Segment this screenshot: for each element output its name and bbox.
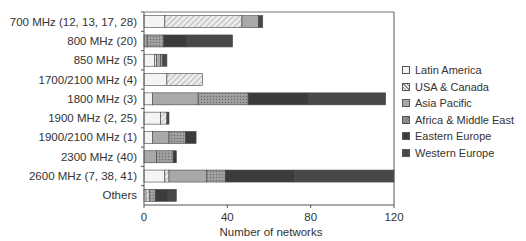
legend-item: Latin America — [402, 62, 514, 79]
category-label: Others — [102, 189, 137, 201]
legend-label: Africa & Middle East — [415, 114, 514, 126]
category-label: 2300 MHz (40) — [61, 151, 137, 163]
bar-segment — [207, 170, 226, 182]
bar-segment — [164, 35, 187, 47]
bar-segment — [144, 93, 152, 105]
bar-segment — [165, 170, 169, 182]
legend-label: Eastern Europe — [415, 130, 491, 142]
bar-segment — [144, 74, 167, 86]
bar-segment — [144, 54, 154, 66]
x-tick-label: 120 — [384, 211, 403, 223]
bar-segment — [167, 74, 202, 86]
legend-label: Western Europe — [415, 147, 494, 159]
bar-segment — [147, 35, 164, 47]
category-label: 850 MHz (5) — [74, 54, 137, 66]
bar-segment — [144, 131, 152, 143]
bar-segment — [144, 151, 157, 163]
legend-item: USA & Canada — [402, 79, 514, 96]
x-tick-label: 80 — [304, 211, 317, 223]
bar-segment — [225, 170, 294, 182]
bar-segment — [161, 112, 167, 124]
legend-swatch-icon — [402, 83, 410, 91]
category-label: 1800 MHz (3) — [67, 93, 137, 105]
bar-segment — [152, 93, 198, 105]
bar-segment — [155, 189, 168, 201]
legend: Latin AmericaUSA & CanadaAsia PacificAfr… — [402, 62, 514, 161]
category-label: 700 MHz (12, 13, 17, 28) — [10, 16, 137, 28]
bar-segment — [154, 54, 156, 66]
bar-segment — [157, 54, 161, 66]
bar-segment — [144, 16, 165, 28]
bar-segment — [259, 16, 263, 28]
bar-segment — [149, 189, 155, 201]
plot-area — [144, 16, 394, 202]
category-label: 2600 MHz (7, 38, 41) — [29, 170, 137, 182]
bar-segment — [167, 112, 169, 124]
x-tick-label: 40 — [221, 211, 234, 223]
bar-segment — [169, 131, 186, 143]
x-tick-label: 0 — [141, 211, 147, 223]
legend-swatch-icon — [402, 132, 410, 140]
legend-label: USA & Canada — [415, 81, 489, 93]
category-label: 800 MHz (20) — [67, 35, 137, 47]
bar-segment — [187, 35, 233, 47]
legend-label: Asia Pacific — [415, 97, 472, 109]
legend-swatch-icon — [402, 99, 410, 107]
legend-item: Western Europe — [402, 145, 514, 162]
bar-segment — [248, 93, 308, 105]
bar-segment — [144, 112, 161, 124]
legend-item: Asia Pacific — [402, 95, 514, 112]
legend-swatch-icon — [402, 116, 410, 124]
bar-segment — [144, 170, 165, 182]
bar-segment — [163, 54, 167, 66]
bar-segment — [169, 170, 207, 182]
category-label: 1700/2100 MHz (4) — [39, 74, 138, 86]
legend-item: Africa & Middle East — [402, 112, 514, 129]
bar-segment — [165, 16, 242, 28]
category-label: 1900/2100 MHz (1) — [39, 131, 138, 143]
bar-segment — [152, 131, 169, 143]
bar-segment — [173, 151, 176, 163]
bar-segment — [309, 93, 386, 105]
legend-swatch-icon — [402, 66, 410, 74]
legend-item: Eastern Europe — [402, 128, 514, 145]
legend-label: Latin America — [415, 64, 482, 76]
bar-segment — [186, 131, 196, 143]
bar-segment — [168, 189, 176, 201]
category-label: 1900 MHz (2, 25) — [48, 112, 137, 124]
bar-segment — [161, 54, 163, 66]
bar-segment — [146, 189, 149, 201]
bar-segment — [242, 16, 259, 28]
x-axis-label: Number of networks — [220, 226, 323, 238]
legend-swatch-icon — [402, 149, 410, 157]
bar-segment — [294, 170, 394, 182]
bar-segment — [157, 151, 174, 163]
bar-segment — [198, 93, 248, 105]
